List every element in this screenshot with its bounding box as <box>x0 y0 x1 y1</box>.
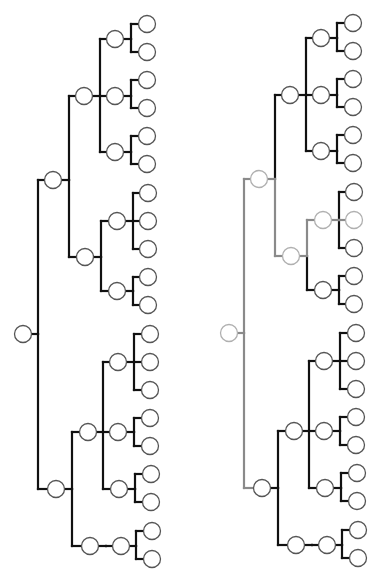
tree-node-b2a <box>319 537 336 554</box>
tree-node-a1c <box>107 144 124 161</box>
tree-node-b1c <box>317 480 334 497</box>
tree-node-a2a1 <box>140 185 157 202</box>
tree-node-r-highlighted <box>221 325 238 342</box>
tree-node-b1a1 <box>142 326 159 343</box>
tree-node-a2a2-highlighted <box>346 212 363 229</box>
tree-node-a2b <box>109 283 126 300</box>
tree-node-a1c2 <box>139 156 156 173</box>
tree-node-b1b <box>316 423 333 440</box>
tree-node-b1b1 <box>142 410 159 427</box>
tree-node-a2a3 <box>346 240 363 257</box>
tree-node-a2b <box>315 282 332 299</box>
tree-node-a1b2 <box>345 99 362 116</box>
tree-node-b1c1 <box>143 466 160 483</box>
tree-node-b1b1 <box>348 409 365 426</box>
tree-node-r <box>15 326 32 343</box>
tree-node-a1 <box>76 88 93 105</box>
tree-node-a1a1 <box>139 16 156 33</box>
tree-node-b2 <box>82 538 99 555</box>
tree-node-a2a3 <box>140 241 157 258</box>
tree-node-b1 <box>80 424 97 441</box>
tree-node-b1b2 <box>348 437 365 454</box>
tree-node-a1a <box>107 31 124 48</box>
tree-node-b <box>254 480 271 497</box>
tree-node-b1c <box>111 481 128 498</box>
tree-node-b1c1 <box>349 465 366 482</box>
tree-node-b2 <box>288 537 305 554</box>
tree-node-a1b2 <box>139 100 156 117</box>
tree-node-a1a2 <box>139 44 156 61</box>
tree-node-a2b2 <box>140 297 157 314</box>
left-tree <box>15 16 161 568</box>
tree-node-a1a <box>313 30 330 47</box>
tree-node-a1b <box>313 87 330 104</box>
tree-node-b1b <box>110 424 127 441</box>
tree-node-a2-highlighted <box>283 248 300 265</box>
tree-node-a2a <box>109 213 126 230</box>
tree-node-a1a2 <box>345 43 362 60</box>
tree-node-a1c1 <box>345 127 362 144</box>
tree-node-b1 <box>286 423 303 440</box>
tree-node-b1a2 <box>348 353 365 370</box>
right-tree-highlighted <box>221 15 367 567</box>
tree-node-a2b1 <box>140 269 157 286</box>
tree-node-a1b1 <box>139 72 156 89</box>
tree-node-a <box>45 172 62 189</box>
tree-node-a2a-highlighted <box>315 212 332 229</box>
tree-node-a2b2 <box>346 296 363 313</box>
tree-node-b1a3 <box>142 382 159 399</box>
tree-node-b1a3 <box>348 381 365 398</box>
tree-node-b1a1 <box>348 325 365 342</box>
tree-node-a-highlighted <box>251 171 268 188</box>
tree-node-a2b1 <box>346 268 363 285</box>
tree-node-b2a1 <box>350 522 367 539</box>
tree-node-b1a <box>110 354 127 371</box>
tree-node-b1c2 <box>349 493 366 510</box>
tree-node-a1c1 <box>139 128 156 145</box>
tree-node-b1a2 <box>142 354 159 371</box>
tree-node-b1a <box>316 353 333 370</box>
tree-node-b2a1 <box>144 523 161 540</box>
tree-diagram-canvas <box>0 0 383 577</box>
tree-node-a1c2 <box>345 155 362 172</box>
tree-node-a1b1 <box>345 71 362 88</box>
tree-node-b1c2 <box>143 494 160 511</box>
tree-node-a1c <box>313 143 330 160</box>
tree-node-a1 <box>282 87 299 104</box>
tree-node-b2a2 <box>144 551 161 568</box>
tree-node-b <box>48 481 65 498</box>
tree-node-a1a1 <box>345 15 362 32</box>
tree-diagram <box>0 0 383 577</box>
tree-node-a2 <box>77 249 94 266</box>
tree-node-b2a <box>113 538 130 555</box>
tree-node-b1b2 <box>142 438 159 455</box>
tree-node-a2a1 <box>346 184 363 201</box>
tree-node-a1b <box>107 88 124 105</box>
tree-node-a2a2 <box>140 213 157 230</box>
tree-node-b2a2 <box>350 550 367 567</box>
